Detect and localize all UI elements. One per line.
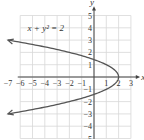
x-tick-label: −4 [41, 79, 50, 88]
x-tick-label: 3 [129, 79, 133, 88]
y-tick-label: −4 [83, 122, 92, 131]
x-tick-label: 1 [104, 79, 108, 88]
y-tick-label: 4 [88, 24, 92, 33]
x-tick-label: −3 [53, 79, 62, 88]
equation-label: x + y² = 2 [27, 23, 65, 33]
x-tick-label: −7 [4, 79, 13, 88]
x-tick-label: −2 [65, 79, 74, 88]
graph: xy−7−6−5−4−3−2−112354321−1−2−3−4−5x + y²… [0, 0, 144, 139]
x-tick-label: −5 [28, 79, 37, 88]
y-tick-label: 2 [88, 48, 92, 57]
y-tick-label: 3 [88, 36, 92, 45]
x-tick-label: −6 [16, 79, 25, 88]
y-axis-label: y [89, 0, 94, 7]
y-tick-label: −3 [83, 110, 92, 119]
y-tick-label: 5 [88, 12, 92, 21]
y-tick-label: 1 [88, 61, 92, 70]
y-tick-label: −5 [83, 135, 92, 140]
x-axis-arrow-icon [136, 75, 140, 79]
y-tick-label: −2 [83, 98, 92, 107]
x-axis-label: x [140, 72, 144, 82]
y-tick-label: −1 [83, 85, 92, 94]
